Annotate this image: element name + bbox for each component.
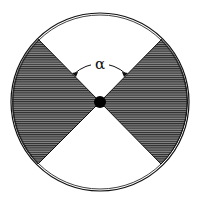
angle-label: α <box>95 55 105 73</box>
center-point <box>94 96 106 108</box>
beam-angle-diagram: α <box>0 0 200 204</box>
